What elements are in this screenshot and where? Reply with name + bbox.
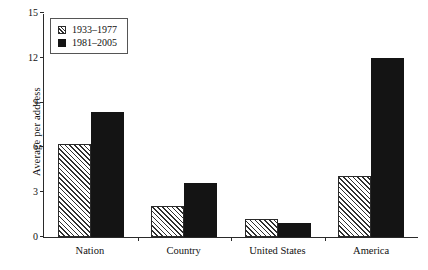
y-tick-label: 3 bbox=[12, 187, 38, 197]
y-tick-mark bbox=[40, 12, 44, 13]
y-tick-mark bbox=[40, 191, 44, 192]
bar-group bbox=[325, 14, 419, 237]
bar-hatched bbox=[338, 176, 371, 237]
legend-item-1: 1981–2005 bbox=[58, 36, 117, 49]
legend-swatch-solid-icon bbox=[58, 39, 66, 47]
y-tick-label: 15 bbox=[12, 8, 38, 18]
legend-label-1: 1981–2005 bbox=[72, 37, 117, 48]
bar-solid bbox=[278, 223, 311, 237]
legend-swatch-hatched-icon bbox=[58, 26, 66, 34]
bar-group bbox=[138, 14, 232, 237]
y-tick-label: 0 bbox=[12, 232, 38, 242]
x-axis-label: United States bbox=[231, 245, 325, 256]
x-axis-label: Country bbox=[137, 245, 231, 256]
x-tick-mark bbox=[325, 237, 326, 241]
bar-hatched bbox=[245, 219, 278, 237]
y-tick-mark bbox=[40, 146, 44, 147]
legend: 1933–1977 1981–2005 bbox=[50, 18, 128, 54]
y-tick-mark bbox=[40, 236, 44, 237]
x-tick-mark bbox=[138, 237, 139, 241]
bar-group bbox=[231, 14, 325, 237]
bar-hatched bbox=[58, 144, 91, 237]
x-axis-label: Nation bbox=[43, 245, 137, 256]
bar-solid bbox=[91, 112, 124, 237]
legend-item-0: 1933–1977 bbox=[58, 23, 117, 36]
bar-solid bbox=[371, 58, 404, 237]
bar-hatched bbox=[151, 206, 184, 237]
y-tick-mark bbox=[40, 102, 44, 103]
bar-solid bbox=[184, 183, 217, 237]
bar-chart: Average per address 03691215 NationCount… bbox=[0, 0, 428, 270]
x-tick-mark bbox=[231, 237, 232, 241]
legend-label-0: 1933–1977 bbox=[72, 24, 117, 35]
y-tick-label: 9 bbox=[12, 98, 38, 108]
y-tick-label: 12 bbox=[12, 53, 38, 63]
y-tick-mark bbox=[40, 57, 44, 58]
y-tick-label: 6 bbox=[12, 142, 38, 152]
x-axis-labels: NationCountryUnited StatesAmerica bbox=[43, 245, 418, 256]
x-axis-label: America bbox=[324, 245, 418, 256]
